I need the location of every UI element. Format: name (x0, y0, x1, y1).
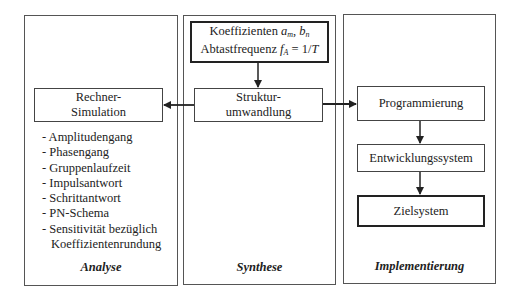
flow-arrows (0, 0, 520, 300)
